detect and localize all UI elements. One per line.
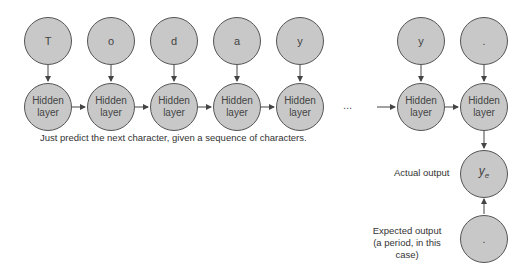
hidden-label: Hidden: [221, 95, 253, 106]
caption: Just predict the next character, given a…: [40, 132, 307, 143]
input-node-4: a: [213, 17, 261, 65]
input-char: d: [171, 35, 177, 47]
hidden-node-2: Hiddenlayer: [87, 83, 135, 131]
hidden-label: layer: [163, 107, 185, 118]
hidden-label: layer: [226, 107, 248, 118]
hidden-label: layer: [289, 107, 311, 118]
input-char: y: [418, 35, 424, 47]
hidden-node-5: Hiddenlayer: [276, 83, 324, 131]
hidden-node-7: Hiddenlayer: [460, 83, 508, 131]
output-subscript: e: [485, 172, 489, 181]
input-char: o: [108, 35, 114, 47]
hidden-node-3: Hiddenlayer: [150, 83, 198, 131]
input-node-7: .: [460, 17, 508, 65]
input-node-5: y: [276, 17, 324, 65]
hidden-node-1: Hiddenlayer: [24, 83, 72, 131]
actual-output-label: Actual output: [394, 167, 449, 179]
input-char: T: [45, 35, 52, 47]
input-char: y: [297, 35, 303, 47]
input-node-3: d: [150, 17, 198, 65]
hidden-label: Hidden: [284, 95, 316, 106]
hidden-label: Hidden: [32, 95, 64, 106]
input-char: .: [482, 35, 485, 47]
hidden-label: layer: [410, 107, 432, 118]
expected-label-line2: (a period, in this case): [373, 237, 441, 260]
hidden-node-4: Hiddenlayer: [213, 83, 261, 131]
expected-label-line1: Expected output: [373, 225, 442, 236]
expected-output-node: .: [460, 215, 508, 263]
hidden-label: Hidden: [405, 95, 437, 106]
actual-output-node: ye: [460, 150, 508, 198]
actual-output-symbol: ye: [479, 165, 489, 182]
hidden-label: Hidden: [468, 95, 500, 106]
input-node-1: T: [24, 17, 72, 65]
input-node-2: o: [87, 17, 135, 65]
hidden-label: layer: [37, 107, 59, 118]
input-arrows: [48, 65, 484, 81]
input-char: a: [234, 35, 240, 47]
expected-output-label: Expected output (a period, in this case): [362, 225, 452, 261]
hidden-label: Hidden: [158, 95, 190, 106]
expected-output-symbol: .: [482, 233, 485, 245]
hidden-label: layer: [473, 107, 495, 118]
hidden-node-6: Hiddenlayer: [397, 83, 445, 131]
hidden-label: layer: [100, 107, 122, 118]
hidden-label: Hidden: [95, 95, 127, 106]
ellipsis: ...: [343, 99, 352, 111]
input-node-6: y: [397, 17, 445, 65]
